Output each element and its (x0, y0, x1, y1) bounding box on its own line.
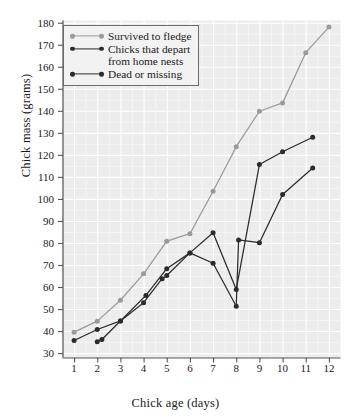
data-point (118, 318, 123, 323)
data-point (95, 327, 100, 332)
data-point (95, 339, 100, 344)
data-point (187, 250, 192, 255)
legend-label-survived: Survived to fledge (108, 30, 191, 43)
data-point (236, 237, 241, 242)
data-point (72, 330, 77, 335)
data-point (280, 100, 285, 105)
chart-legend: Survived to fledge Chicks that depart fr… (63, 25, 199, 86)
legend-label-departed-line1: Chicks that depart (108, 43, 190, 56)
data-point (160, 276, 165, 281)
y-tick-label: 50 (20, 303, 54, 315)
legend-label-departed-line2: from home nests (108, 55, 190, 68)
y-tick-label: 40 (20, 325, 54, 337)
y-tick-label: 160 (20, 61, 54, 73)
data-point (234, 304, 239, 309)
y-tick-label: 30 (20, 347, 54, 359)
data-point (257, 162, 262, 167)
data-point (310, 166, 315, 171)
data-point (211, 189, 216, 194)
y-tick-label: 90 (20, 215, 54, 227)
y-tick-label: 170 (20, 39, 54, 51)
data-point (99, 337, 104, 342)
data-point (280, 192, 285, 197)
data-point (141, 271, 146, 276)
data-point (164, 266, 169, 271)
legend-item-dead: Dead or missing (70, 68, 191, 81)
legend-item-departed: Chicks that depart from home nests (70, 43, 191, 68)
data-point (187, 231, 192, 236)
y-tick-label: 60 (20, 281, 54, 293)
legend-key-departed (70, 43, 104, 56)
data-point (164, 273, 169, 278)
y-tick-label: 140 (20, 105, 54, 117)
y-tick-label: 120 (20, 149, 54, 161)
data-point (303, 50, 308, 55)
data-point (164, 239, 169, 244)
y-tick-label: 180 (20, 17, 54, 29)
y-tick-label: 110 (20, 171, 54, 183)
data-point (211, 261, 216, 266)
x-axis-tick-labels: 123456789101112 (0, 362, 351, 382)
y-axis-tick-labels: 3040506070809010011012013014015016017018… (20, 0, 54, 419)
legend-key-dead (70, 68, 104, 81)
data-point (211, 230, 216, 235)
data-point (234, 144, 239, 149)
y-tick-label: 130 (20, 127, 54, 139)
data-point (257, 109, 262, 114)
data-point (326, 25, 331, 30)
data-point (118, 298, 123, 303)
x-tick-label: 12 (314, 362, 344, 374)
y-tick-label: 150 (20, 83, 54, 95)
y-tick-label: 80 (20, 237, 54, 249)
y-tick-label: 70 (20, 259, 54, 271)
legend-label-dead: Dead or missing (108, 68, 182, 81)
legend-label-departed: Chicks that depart from home nests (108, 43, 190, 68)
data-point (310, 135, 315, 140)
data-point (280, 149, 285, 154)
data-point (95, 319, 100, 324)
data-point (141, 300, 146, 305)
data-point (257, 240, 262, 245)
legend-label-survived-line1: Survived to fledge (108, 30, 191, 43)
data-point (72, 338, 77, 343)
y-tick-label: 100 (20, 193, 54, 205)
legend-key-survived (70, 30, 104, 43)
legend-label-dead-line1: Dead or missing (108, 68, 182, 81)
legend-item-survived: Survived to fledge (70, 30, 191, 43)
